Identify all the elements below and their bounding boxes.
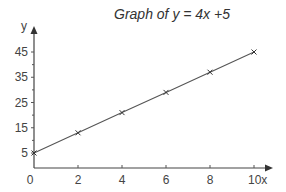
origin-label: 0 bbox=[27, 173, 34, 187]
data-point-marker bbox=[76, 130, 81, 135]
y-tick-label: 15 bbox=[15, 121, 29, 135]
line-chart: Graph of y = 4x +5 y246810x0515253545 bbox=[0, 0, 286, 192]
tick-labels: y246810x0515253545 bbox=[15, 19, 268, 187]
y-axis-arrow-icon bbox=[31, 26, 38, 34]
y-tick-label: 5 bbox=[21, 146, 28, 160]
data-point-marker bbox=[120, 110, 125, 115]
x-tick-label: 4 bbox=[119, 173, 126, 187]
data-point-marker bbox=[208, 70, 213, 75]
x-tick-label: 2 bbox=[75, 173, 82, 187]
y-axis-label: y bbox=[21, 19, 27, 33]
data-point-marker bbox=[252, 50, 257, 55]
y-tick-label: 25 bbox=[15, 96, 29, 110]
x-tick-label: 6 bbox=[163, 173, 170, 187]
series-group bbox=[32, 50, 257, 156]
data-point-marker bbox=[164, 90, 169, 95]
y-tick-label: 45 bbox=[15, 45, 29, 59]
y-tick-label: 35 bbox=[15, 70, 29, 84]
x-tick-label-with-axis-label: 10x bbox=[248, 173, 267, 187]
chart-title: Graph of y = 4x +5 bbox=[114, 6, 230, 22]
x-axis-arrow-icon bbox=[265, 165, 273, 172]
x-tick-label: 8 bbox=[207, 173, 214, 187]
series-line bbox=[34, 52, 254, 153]
ticks bbox=[31, 52, 254, 168]
